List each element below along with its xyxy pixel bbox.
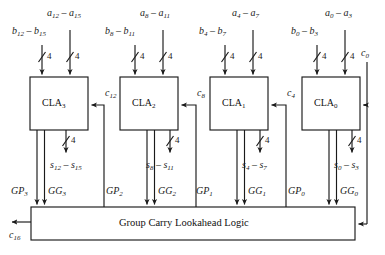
cla3-b-bus-width-label: 4 [47,52,52,61]
cla2-block-label: CLA2 [132,98,156,108]
cla1-gg-label: GG1 [248,186,266,196]
cla2-sum-output-label: s8 – s11 [146,160,174,170]
cla1-a-bus-width-label: 4 [258,52,263,61]
cla2-carry-in-label: c8 [197,88,205,98]
cla2-gp-label: GP2 [106,186,123,196]
cla0-a-input-label: a0 – a3 [325,8,352,18]
cla-adder-diagram: a12 – a15 b12 – b15 4 4 CLA3 c12 4 s12 –… [0,0,385,255]
cla3-gp-label: GP3 [11,186,28,196]
cla2-carry-in-path [182,105,197,207]
cla0-gp-label: GP0 [288,186,305,196]
cla1-gp-label: GP1 [196,186,213,196]
cla0-b-bus-width-label: 4 [322,52,327,61]
cla2-a-input-label: a8 – a11 [140,8,170,18]
cla2-b-bus-width-label: 4 [140,52,145,61]
cla0-b-input-label: b0 – b3 [291,26,318,36]
cla3-sum-bus-width-label: 4 [71,136,76,145]
cla3-a-input-label: a12 – a15 [47,8,81,18]
carry-out-c16-label: c16 [9,230,20,240]
cla1-a-input-label: a4 – a7 [232,8,259,18]
cla3-block-label: CLA3 [42,98,66,108]
group-carry-lookahead-label: Group Carry Lookahead Logic [119,218,249,229]
cla1-carry-in-label: c4 [287,88,295,98]
cla3-carry-in-label: c12 [105,88,116,98]
cla0-gg-label: GG0 [340,186,358,196]
cla2-sum-bus-width-label: 4 [175,136,180,145]
cla0-block-label: CLA0 [314,98,338,108]
cla1-b-input-label: b4 – b7 [199,26,226,36]
cla3-b-input-label: b12 – b15 [12,26,46,36]
cla0-carry-in-label: c0 [361,48,369,58]
cla3-gg-label: GG3 [48,186,66,196]
cla1-sum-bus-width-label: 4 [265,136,270,145]
cla1-block-label: CLA1 [222,98,246,108]
cla0-sum-bus-width-label: 4 [357,136,362,145]
cla0-a-bus-width-label: 4 [350,52,355,61]
cla2-b-input-label: b8 – b11 [105,26,135,36]
cla0-sum-output-label: s0 – s3 [334,160,359,170]
cla1-b-bus-width-label: 4 [230,52,235,61]
cla1-carry-in-path [272,105,287,207]
cla3-carry-in-path [92,105,105,207]
cla1-sum-output-label: s4 – s7 [242,160,267,170]
cla3-a-bus-width-label: 4 [75,52,80,61]
cla2-gg-label: GG2 [158,186,176,196]
cla2-a-bus-width-label: 4 [168,52,173,61]
cla3-sum-output-label: s12 – s15 [50,160,82,170]
